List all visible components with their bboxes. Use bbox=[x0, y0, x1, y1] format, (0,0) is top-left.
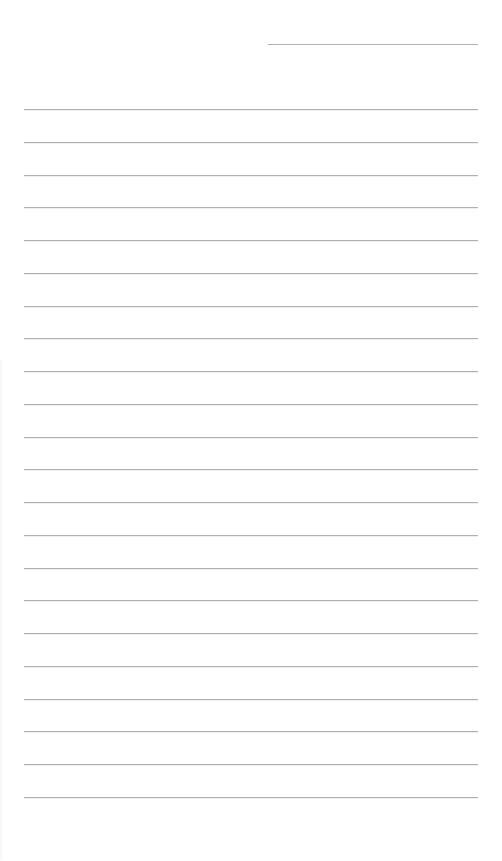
ruled-line bbox=[24, 273, 478, 274]
ruled-line bbox=[24, 338, 478, 339]
ruled-line bbox=[24, 666, 478, 667]
ruled-line bbox=[24, 207, 478, 208]
ruled-line bbox=[24, 437, 478, 438]
page-edge-shadow bbox=[0, 360, 3, 860]
ruled-line bbox=[24, 797, 478, 798]
ruled-line bbox=[24, 502, 478, 503]
ruled-line bbox=[24, 142, 478, 143]
header-line bbox=[268, 44, 478, 45]
ruled-line bbox=[24, 633, 478, 634]
ruled-line bbox=[24, 764, 478, 765]
ruled-line bbox=[24, 568, 478, 569]
ruled-line bbox=[24, 600, 478, 601]
ruled-line bbox=[24, 240, 478, 241]
ruled-line bbox=[24, 109, 478, 110]
ruled-line bbox=[24, 699, 478, 700]
ruled-line bbox=[24, 175, 478, 176]
ruled-line bbox=[24, 306, 478, 307]
lined-paper-page bbox=[0, 0, 502, 861]
ruled-line bbox=[24, 469, 478, 470]
ruled-line bbox=[24, 535, 478, 536]
ruled-line bbox=[24, 404, 478, 405]
ruled-line bbox=[24, 371, 478, 372]
ruled-line bbox=[24, 731, 478, 732]
